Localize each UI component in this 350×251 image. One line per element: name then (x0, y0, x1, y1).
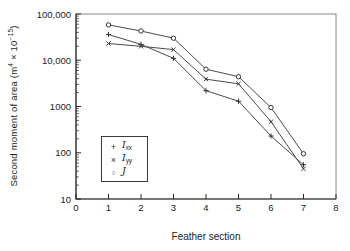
plot-canvas: 10100100010,000100,000012345678 (0, 0, 350, 251)
circle-marker-icon: ○ (109, 168, 118, 178)
y-tick-label: 10 (60, 194, 71, 205)
circle-marker-icon (106, 23, 110, 27)
x-tick-label: 2 (138, 202, 143, 213)
x-tick-label: 3 (171, 202, 176, 213)
y-axis-title-mid: × 10 (8, 40, 19, 62)
chart: 10100100010,000100,000012345678 Second m… (0, 0, 350, 251)
x-tick-label: 5 (236, 202, 241, 213)
circle-marker-icon (301, 152, 305, 156)
y-tick-label: 100 (55, 147, 71, 158)
x-axis-title: Feather section (172, 231, 241, 242)
y-axis-title-close: ) (8, 25, 19, 28)
legend-item-ixx: + Ixx (109, 140, 145, 153)
y-axis-title-text: Second moment of area (m (8, 67, 19, 187)
x-tick-label: 7 (301, 202, 306, 213)
legend-sub-iyy: yy (126, 157, 132, 164)
x-tick-label: 4 (203, 202, 208, 213)
x-tick-label: 6 (268, 202, 273, 213)
y-axis-title: Second moment of area (m4 × 10−15) (7, 25, 19, 186)
legend: + Ixx × Iyy ○ J (101, 136, 148, 182)
legend-item-iyy: × Iyy (109, 153, 145, 166)
circle-marker-icon (204, 67, 208, 71)
x-tick-label: 0 (73, 202, 78, 213)
y-tick-label: 100,000 (37, 9, 71, 20)
circle-marker-icon (269, 105, 273, 109)
legend-item-j: ○ J (109, 166, 145, 179)
circle-marker-icon (139, 29, 143, 33)
y-axis-title-exp2: −15 (7, 29, 14, 41)
plus-marker-icon: + (109, 142, 118, 152)
cross-marker-icon (269, 120, 273, 124)
cross-marker-icon: × (109, 155, 118, 165)
y-axis-title-exp1: 4 (7, 63, 14, 67)
legend-sub-ixx: xx (126, 144, 132, 151)
plus-marker-icon (106, 32, 111, 37)
y-tick-label: 10,000 (42, 55, 71, 66)
y-tick-label: 1000 (50, 101, 71, 112)
x-tick-label: 8 (333, 202, 338, 213)
legend-var-j: J (122, 165, 126, 176)
x-tick-label: 1 (106, 202, 111, 213)
legend-label-j: J (122, 166, 126, 179)
circle-marker-icon (171, 36, 175, 40)
circle-marker-icon (236, 75, 240, 79)
